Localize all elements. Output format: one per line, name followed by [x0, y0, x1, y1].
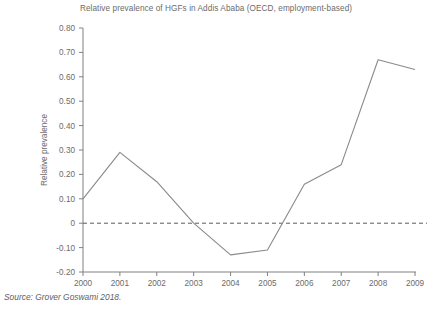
y-axis-title: Relative prevalence — [40, 114, 49, 186]
x-axis-tick-label: 2007 — [332, 279, 351, 288]
y-axis-tick-label: 0.70 — [59, 48, 75, 57]
y-axis-title-text: Relative prevalence — [40, 114, 49, 186]
y-axis-tick-label: 0.10 — [59, 195, 75, 204]
y-axis-tick-label: -0.20 — [56, 268, 75, 277]
source-text: Source: Grover Goswami 2018. — [4, 292, 121, 302]
x-axis-tick-label: 2001 — [111, 279, 130, 288]
y-axis-tick-label: 0.50 — [59, 97, 75, 106]
y-axis-tick-label: 0.80 — [59, 24, 75, 33]
series-relative-prevalence — [83, 60, 415, 255]
x-axis-tick-label: 2004 — [221, 279, 240, 288]
x-axis-tick-label: 2002 — [148, 279, 167, 288]
y-axis: 0.800.700.600.500.400.300.200.100-0.10-0… — [56, 24, 83, 277]
y-axis-tick-label: -0.10 — [56, 244, 75, 253]
y-axis-tick-label: 0 — [70, 219, 75, 228]
x-axis-tick-label: 2009 — [406, 279, 425, 288]
line-chart-plot: 0.800.700.600.500.400.300.200.100-0.10-0… — [0, 0, 432, 310]
x-axis-tick-label: 2008 — [369, 279, 388, 288]
x-axis-tick-label: 2000 — [74, 279, 93, 288]
y-axis-tick-label: 0.30 — [59, 146, 75, 155]
source-note: Source: Grover Goswami 2018. — [4, 292, 121, 302]
chart-figure: Relative prevalence of HGFs in Addis Aba… — [0, 0, 432, 310]
x-axis-tick-label: 2005 — [258, 279, 277, 288]
y-axis-tick-label: 0.20 — [59, 170, 75, 179]
x-axis-tick-label: 2006 — [295, 279, 314, 288]
data-series-line — [83, 60, 415, 255]
x-axis: 2000200120022003200420052006200720082009 — [74, 272, 425, 288]
y-axis-tick-label: 0.60 — [59, 73, 75, 82]
y-axis-tick-label: 0.40 — [59, 122, 75, 131]
x-axis-tick-label: 2003 — [185, 279, 204, 288]
